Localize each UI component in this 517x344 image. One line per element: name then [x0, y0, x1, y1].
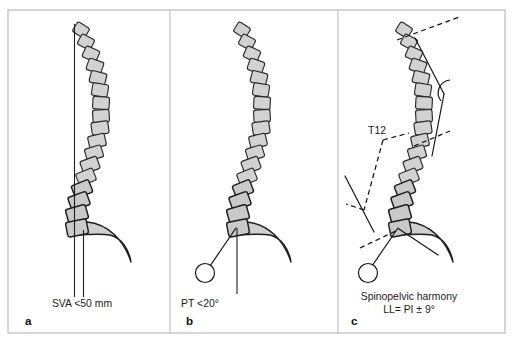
panel-c-vertebra-7	[415, 96, 432, 109]
panel-b-letter: b	[186, 314, 193, 327]
panel-b-vertebra-17	[226, 219, 249, 238]
figure-container: SVA <50 mmaPT <20°bT12Spinopelvic harmon…	[0, 0, 517, 344]
panel-c-caption-line-1: Spinopelvic harmony	[361, 291, 458, 302]
panel-b-vertebra-9	[252, 121, 271, 136]
panel-b-caption-line-1: PT <20°	[181, 298, 219, 309]
panel-b-vertebra-6	[252, 83, 270, 98]
panel-a-vertebra-17	[65, 219, 88, 238]
panel-a-vertebra-9	[91, 121, 110, 136]
panel-c-letter: c	[351, 314, 358, 327]
panel-c-vertebra-6	[414, 83, 432, 98]
panel-b-vertebra-7	[253, 96, 270, 109]
panel-b-femoral-head-circle	[196, 264, 215, 283]
panel-a-vertebra-6	[91, 83, 109, 98]
spinopelvic-figure: SVA <50 mmaPT <20°bT12Spinopelvic harmon…	[0, 0, 517, 344]
panel-c-femoral-head-circle	[359, 264, 378, 283]
panel-a-letter: a	[25, 314, 32, 327]
panel-a-vertebra-7	[92, 96, 109, 109]
panel-a-caption-line-1: SVA <50 mm	[52, 298, 112, 309]
panel-c-caption-line-2: LL= PI ± 9°	[383, 304, 435, 315]
panel-c-t12-label: T12	[368, 125, 386, 136]
panel-c-vertebra-9	[414, 121, 433, 136]
